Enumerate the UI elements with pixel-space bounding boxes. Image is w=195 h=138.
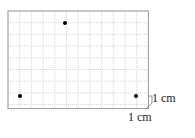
point bbox=[134, 94, 138, 98]
point bbox=[63, 21, 67, 25]
horizontal-scale-label: 1 cm bbox=[128, 110, 152, 125]
grid-diagram bbox=[0, 0, 195, 138]
point bbox=[18, 94, 22, 98]
vertical-scale-label: 1 cm bbox=[152, 91, 176, 106]
